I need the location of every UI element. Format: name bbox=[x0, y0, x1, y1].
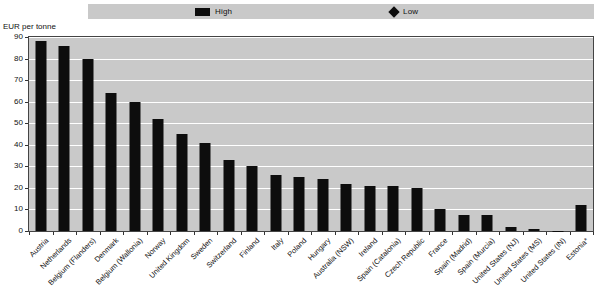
bar-slot bbox=[452, 37, 476, 231]
y-axis-tick-label: 80 bbox=[14, 54, 23, 63]
y-axis-tick-mark bbox=[25, 59, 28, 60]
bar-slot bbox=[405, 37, 429, 231]
bar-slot bbox=[194, 37, 218, 231]
y-axis-tick-label: 50 bbox=[14, 118, 23, 127]
y-axis-tick: 90 bbox=[0, 37, 28, 38]
y-axis-tick: 50 bbox=[0, 123, 28, 124]
x-axis-tick-mark bbox=[194, 232, 195, 235]
bar[interactable] bbox=[388, 186, 399, 231]
x-axis-tick-mark bbox=[288, 232, 289, 235]
y-axis-tick: 30 bbox=[0, 166, 28, 167]
y-axis-tick: 40 bbox=[0, 145, 28, 146]
legend-label-low: Low bbox=[403, 8, 418, 16]
legend-entry-high: High bbox=[195, 4, 232, 19]
y-axis-tick-mark bbox=[25, 188, 28, 189]
x-axis-tick-mark bbox=[241, 232, 242, 235]
x-axis-tick-label: Estonia* bbox=[564, 236, 590, 262]
chart-legend: High Low bbox=[88, 4, 594, 19]
bar[interactable] bbox=[223, 160, 234, 231]
legend-entry-low: Low bbox=[390, 4, 418, 19]
y-axis: 0102030405060708090 bbox=[0, 36, 28, 232]
bar[interactable] bbox=[576, 205, 587, 231]
x-axis-tick-mark bbox=[100, 232, 101, 235]
bar[interactable] bbox=[270, 175, 281, 231]
x-axis-tick-mark bbox=[217, 232, 218, 235]
y-axis-tick-mark bbox=[25, 209, 28, 210]
x-axis-tick-mark bbox=[476, 232, 477, 235]
y-axis-tick-mark bbox=[25, 102, 28, 103]
bar[interactable] bbox=[176, 134, 187, 231]
x-axis-tick-mark bbox=[264, 232, 265, 235]
y-axis-tick: 60 bbox=[0, 102, 28, 103]
square-marker-icon bbox=[195, 8, 210, 16]
y-axis-tick-mark bbox=[25, 123, 28, 124]
bar-slot bbox=[288, 37, 312, 231]
x-axis-tick-mark bbox=[546, 232, 547, 235]
y-axis-tick-mark bbox=[25, 231, 28, 232]
y-axis-tick-label: 70 bbox=[14, 75, 23, 84]
bar[interactable] bbox=[435, 209, 446, 231]
bar[interactable] bbox=[341, 184, 352, 231]
y-axis-tick-mark bbox=[25, 166, 28, 167]
bar[interactable] bbox=[59, 46, 70, 231]
y-axis-tick: 70 bbox=[0, 80, 28, 81]
x-axis-tick-mark bbox=[335, 232, 336, 235]
x-axis-tick-mark bbox=[311, 232, 312, 235]
bar[interactable] bbox=[482, 215, 493, 231]
bar[interactable] bbox=[247, 166, 258, 231]
bars-layer bbox=[29, 37, 593, 231]
bar-slot bbox=[170, 37, 194, 231]
bar[interactable] bbox=[505, 227, 516, 231]
bar-slot bbox=[217, 37, 241, 231]
x-axis-tick-mark bbox=[405, 232, 406, 235]
bar[interactable] bbox=[200, 143, 211, 231]
y-axis-tick: 0 bbox=[0, 231, 28, 232]
bar[interactable] bbox=[35, 41, 46, 231]
bar-slot bbox=[570, 37, 594, 231]
x-axis-tick-mark bbox=[358, 232, 359, 235]
x-axis-tick-mark bbox=[570, 232, 571, 235]
bar-slot bbox=[311, 37, 335, 231]
bar-slot bbox=[53, 37, 77, 231]
bar[interactable] bbox=[317, 179, 328, 231]
x-axis-tick-mark bbox=[123, 232, 124, 235]
y-axis-tick-label: 60 bbox=[14, 97, 23, 106]
diamond-marker-icon bbox=[388, 6, 399, 17]
bar[interactable] bbox=[529, 229, 540, 231]
x-axis-tick-mark bbox=[593, 232, 594, 235]
x-axis-tick-label: United States (IN) bbox=[519, 236, 568, 285]
y-axis-tick: 80 bbox=[0, 59, 28, 60]
y-axis-tick-label: 20 bbox=[14, 183, 23, 192]
bar[interactable] bbox=[294, 177, 305, 231]
bar[interactable] bbox=[364, 186, 375, 231]
y-axis-tick: 10 bbox=[0, 209, 28, 210]
bar[interactable] bbox=[106, 93, 117, 231]
y-axis-title: EUR per tonne bbox=[3, 22, 56, 31]
bar[interactable] bbox=[411, 188, 422, 231]
bar-slot bbox=[76, 37, 100, 231]
y-axis-tick-mark bbox=[25, 80, 28, 81]
bar-slot bbox=[100, 37, 124, 231]
bar-slot bbox=[147, 37, 171, 231]
x-axis-tick-mark bbox=[523, 232, 524, 235]
bar-slot bbox=[429, 37, 453, 231]
bar-slot bbox=[382, 37, 406, 231]
bar-slot bbox=[335, 37, 359, 231]
bar-slot bbox=[523, 37, 547, 231]
bar[interactable] bbox=[458, 215, 469, 231]
x-axis-tick-mark bbox=[170, 232, 171, 235]
bar-slot bbox=[499, 37, 523, 231]
bar-slot bbox=[123, 37, 147, 231]
y-axis-tick-label: 40 bbox=[14, 140, 23, 149]
bar-slot bbox=[358, 37, 382, 231]
x-axis-tick-mark bbox=[452, 232, 453, 235]
x-axis-tick-mark bbox=[429, 232, 430, 235]
y-axis-tick: 20 bbox=[0, 188, 28, 189]
bar[interactable] bbox=[82, 59, 93, 231]
x-axis-tick-label: Finland bbox=[238, 236, 262, 260]
bar-slot bbox=[476, 37, 500, 231]
bar[interactable] bbox=[153, 119, 164, 231]
x-axis-labels: AustriaNetherlandsBelgium (Flanders)Denm… bbox=[29, 236, 593, 299]
x-axis-tick-mark bbox=[382, 232, 383, 235]
bar[interactable] bbox=[129, 102, 140, 231]
